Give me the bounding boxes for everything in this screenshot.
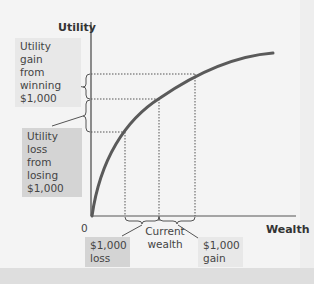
brace-wealth-gain xyxy=(159,217,195,224)
label-line: Utility gain xyxy=(20,40,76,66)
wealth-loss-label: $1,000 loss xyxy=(85,237,130,267)
utility-loss-label: Utility loss from losing $1,000 xyxy=(22,128,82,197)
label-line: loss xyxy=(90,252,125,265)
label-line: wealth xyxy=(145,238,185,251)
wealth-gain-label: $1,000 gain xyxy=(198,237,243,267)
origin-label: 0 xyxy=(81,222,88,235)
label-line: Current xyxy=(145,225,185,238)
brace-gain xyxy=(83,74,90,99)
label-line: from losing xyxy=(27,156,77,182)
y-axis-label: Utility xyxy=(58,21,96,34)
leader-wealth-loss xyxy=(122,225,142,236)
current-wealth-label: Current wealth xyxy=(145,225,185,251)
label-line: gain xyxy=(203,252,238,265)
utility-curve xyxy=(92,53,273,216)
label-line: $1,000 xyxy=(203,239,238,252)
utility-gain-label: Utility gain from winning $1,000 xyxy=(15,38,81,107)
label-line: $1,000 xyxy=(27,182,77,195)
x-axis-label: Wealth xyxy=(266,223,309,236)
leader-loss xyxy=(52,116,83,126)
brace-wealth-loss xyxy=(125,217,159,224)
label-line: $1,000 xyxy=(20,92,76,105)
label-line: Utility loss xyxy=(27,130,77,156)
brace-loss xyxy=(83,100,90,132)
label-line: from winning xyxy=(20,66,76,92)
label-line: $1,000 xyxy=(90,239,125,252)
